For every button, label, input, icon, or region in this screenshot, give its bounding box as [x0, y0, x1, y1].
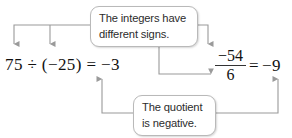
callout-signs-line2: different signs.	[99, 27, 190, 43]
right-quotient-value: −9	[262, 56, 281, 76]
callout-integers-different-signs: The integers have different signs.	[90, 6, 198, 47]
connector-signs-to-denominator	[159, 47, 211, 74]
fraction-denominator: 6	[224, 66, 238, 83]
callout-quotient-line2: is negative.	[142, 116, 208, 132]
connector-signs-to-dividend	[14, 25, 90, 44]
connector-quotient-to-left-answer	[102, 79, 133, 113]
fraction-numerator: −54	[215, 48, 246, 65]
callout-quotient-is-negative: The quotient is negative.	[133, 95, 216, 136]
callout-quotient-line1: The quotient	[142, 101, 202, 113]
connector-quotient-to-right-answer	[216, 79, 278, 113]
equation-left: 75 ÷ (−25) = −3	[5, 55, 120, 75]
diagram-canvas: The integers have different signs. The q…	[0, 0, 292, 138]
connector-signs-to-numerator	[198, 25, 208, 44]
equals-sign: =	[249, 56, 259, 76]
fraction-negative-54-over-6: −54 6	[215, 48, 246, 83]
equation-right: −54 6 = −9	[215, 48, 281, 83]
callout-signs-line1: The integers have	[99, 12, 186, 24]
